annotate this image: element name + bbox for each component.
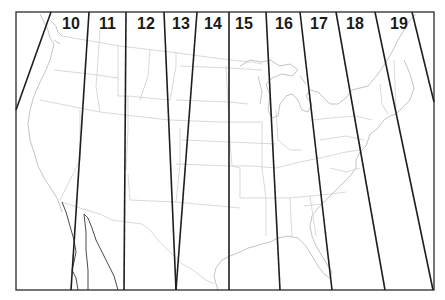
zone-label-17: 17 [310, 15, 328, 32]
caption-strip [0, 292, 445, 300]
utm-zone-map: 10 11 12 13 14 15 16 17 18 19 [0, 0, 445, 300]
zone-labels: 10 11 12 13 14 15 16 17 18 19 [62, 15, 408, 32]
zone-label-18: 18 [346, 15, 364, 32]
zone-label-12: 12 [137, 15, 155, 32]
zone-label-11: 11 [99, 15, 116, 32]
zone-label-19: 19 [390, 15, 408, 32]
zone-label-14: 14 [204, 15, 222, 32]
zone-label-10: 10 [62, 15, 80, 32]
zone-label-13: 13 [172, 15, 190, 32]
zone-label-15: 15 [235, 15, 253, 32]
zone-label-16: 16 [275, 15, 293, 32]
